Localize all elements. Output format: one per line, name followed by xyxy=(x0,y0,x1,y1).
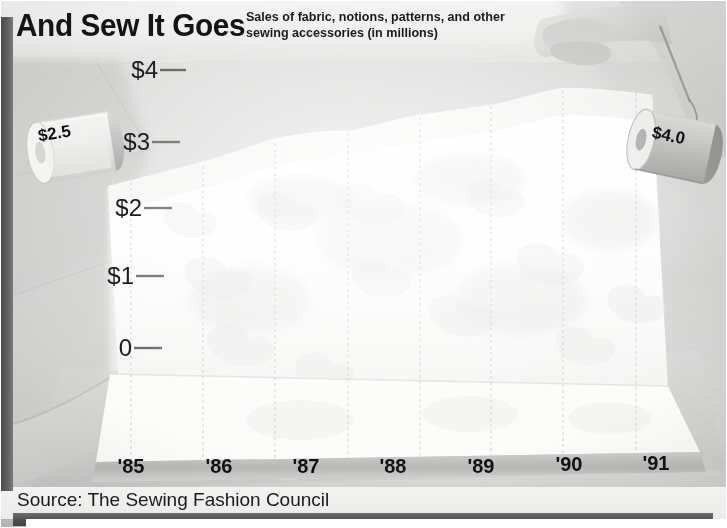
x-axis-label-91: '91 xyxy=(625,452,687,475)
bottom-gap xyxy=(26,519,726,528)
page-subtitle: Sales of fabric, notions, patterns, and … xyxy=(246,9,505,40)
infographic-page: And Sew It Goes Sales of fabric, notions… xyxy=(0,0,727,528)
left-rule xyxy=(0,17,13,491)
x-axis-label-89: '89 xyxy=(450,455,512,478)
y-axis-label-2: $2 xyxy=(52,194,142,222)
x-axis-label-86: '86 xyxy=(188,455,250,478)
y-axis-label-3: $3 xyxy=(60,128,150,156)
y-axis-label-0: 0 xyxy=(42,334,132,362)
source-text: Source: The Sewing Fashion Council xyxy=(17,489,329,511)
page-title: And Sew It Goes xyxy=(16,8,245,44)
x-axis-label-85: '85 xyxy=(100,455,162,478)
x-axis-label-88: '88 xyxy=(362,455,424,478)
x-axis-label-87: '87 xyxy=(275,455,337,478)
x-axis-label-90: '90 xyxy=(538,453,600,476)
y-axis-label-1: $1 xyxy=(44,262,134,290)
y-axis-label-4: $4 xyxy=(68,56,158,84)
